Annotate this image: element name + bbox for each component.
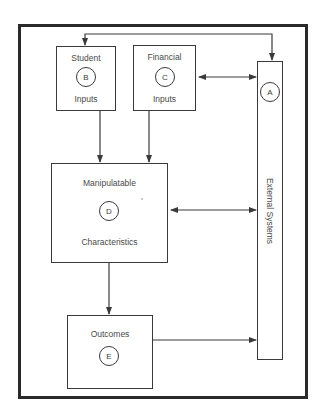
node-label-bottom: Characteristics [52, 237, 167, 247]
node-id: A [267, 88, 272, 97]
node-manipulatable-characteristics: Manipulatable D Characteristics [51, 163, 168, 263]
node-id-circle: B [76, 67, 96, 87]
node-label-bottom: Inputs [57, 94, 115, 104]
node-label-top: Student [57, 53, 115, 63]
node-financial-inputs: Financial C Inputs [133, 45, 196, 111]
node-outcomes: Outcomes E [67, 315, 153, 389]
node-label-bottom: Inputs [134, 94, 195, 104]
node-label-top: Manipulatable [52, 178, 167, 188]
node-label-top: Financial [134, 52, 195, 62]
node-id-circle: D [99, 201, 119, 221]
node-id: C [162, 73, 168, 82]
node-id: D [106, 207, 112, 216]
node-id-circle: C [155, 67, 175, 87]
node-id-circle: A [260, 82, 280, 102]
node-id: B [83, 73, 88, 82]
scan-artifact [141, 198, 143, 200]
node-student-inputs: Student B Inputs [56, 46, 116, 111]
node-label: External Systems [265, 174, 275, 248]
node-label-top: Outcomes [68, 329, 152, 339]
node-id: E [106, 352, 111, 361]
system-diagram: A External Systems Student B Inputs Fina… [0, 0, 324, 409]
node-id-circle: E [99, 346, 119, 366]
node-external-systems: A External Systems [257, 61, 283, 360]
